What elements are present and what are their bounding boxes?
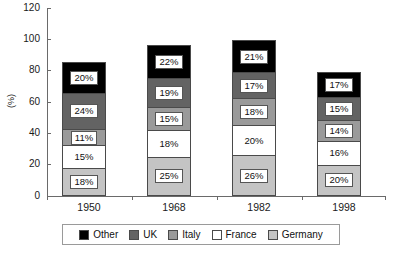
legend-swatch-france-icon [212, 230, 222, 240]
x-axis-line [47, 196, 385, 197]
y-tick-label-120: 120 [14, 3, 40, 13]
segment-germany-1950[interactable]: 18% [62, 168, 106, 196]
legend-item-uk[interactable]: UK [129, 230, 157, 240]
legend-label: Germany [282, 230, 323, 240]
legend-swatch-italy-icon [168, 230, 178, 240]
plot-area: 18% 15% 11% 24% 20% 25% [47, 8, 385, 196]
segment-label: 11% [71, 131, 97, 145]
segment-label: 26% [240, 169, 267, 183]
stacked-bar-1968[interactable]: 25% 18% 15% 19% 22% [147, 46, 191, 196]
y-tick-label-20: 20 [14, 159, 40, 169]
segment-label: 24% [70, 104, 97, 118]
segment-other-1998[interactable]: 17% [317, 72, 361, 99]
segment-france-1982[interactable]: 20% [232, 125, 276, 156]
segment-label: 15% [70, 150, 97, 164]
x-tick-mark-1 [132, 196, 133, 200]
segment-label: 16% [325, 146, 352, 160]
y-tick-label-100: 100 [14, 34, 40, 44]
legend-label: Italy [182, 230, 200, 240]
segment-label: 21% [240, 50, 267, 64]
segment-france-1968[interactable]: 18% [147, 130, 191, 158]
segment-label: 18% [70, 175, 97, 189]
legend-label: UK [143, 230, 157, 240]
legend-item-france[interactable]: France [212, 230, 257, 240]
segment-uk-1998[interactable]: 15% [317, 97, 361, 121]
stacked-bar-1998[interactable]: 20% 16% 14% 15% 17% [317, 73, 361, 196]
stacked-bar-1982[interactable]: 26% 20% 18% 17% 21% [232, 41, 276, 196]
legend-swatch-other-icon [79, 230, 89, 240]
segment-label: 20% [240, 134, 267, 148]
x-tick-mark-0 [47, 196, 48, 200]
segment-uk-1968[interactable]: 19% [147, 78, 191, 108]
y-tick-label-0: 0 [14, 191, 40, 201]
x-axis-label-1982: 1982 [224, 201, 294, 213]
segment-other-1982[interactable]: 21% [232, 40, 276, 73]
segment-france-1950[interactable]: 15% [62, 145, 106, 169]
legend-item-italy[interactable]: Italy [168, 230, 200, 240]
segment-label: 18% [240, 105, 267, 119]
segment-label: 15% [325, 102, 352, 116]
segment-uk-1950[interactable]: 24% [62, 93, 106, 131]
stacked-bar-1950[interactable]: 18% 15% 11% 24% 20% [62, 63, 106, 196]
segment-france-1998[interactable]: 16% [317, 141, 361, 166]
segment-italy-1968[interactable]: 15% [147, 107, 191, 131]
segment-germany-1982[interactable]: 26% [232, 155, 276, 196]
segment-label: 20% [325, 173, 352, 187]
y-tick-label-80: 80 [14, 65, 40, 75]
segment-germany-1968[interactable]: 25% [147, 157, 191, 196]
x-axis-label-1998: 1998 [309, 201, 379, 213]
legend-swatch-uk-icon [129, 230, 139, 240]
legend-item-other[interactable]: Other [79, 230, 118, 240]
segment-label: 15% [155, 112, 182, 126]
segment-germany-1998[interactable]: 20% [317, 165, 361, 196]
stacked-bar-chart: (%) 120 100 80 60 40 20 0 18% 15% 11% [0, 0, 401, 259]
segment-label: 18% [155, 137, 182, 151]
chart-legend: Other UK Italy France Germany [62, 224, 340, 245]
x-tick-mark-3 [302, 196, 303, 200]
legend-label: Other [93, 230, 118, 240]
segment-label: 22% [155, 55, 182, 69]
y-tick-label-60: 60 [14, 97, 40, 107]
segment-label: 14% [325, 124, 352, 138]
x-tick-mark-4 [385, 196, 386, 200]
segment-other-1950[interactable]: 20% [62, 62, 106, 93]
segment-label: 19% [155, 86, 182, 100]
legend-label: France [226, 230, 257, 240]
segment-label: 25% [155, 169, 182, 183]
segment-uk-1982[interactable]: 17% [232, 72, 276, 99]
segment-other-1968[interactable]: 22% [147, 45, 191, 80]
segment-italy-1998[interactable]: 14% [317, 120, 361, 142]
segment-label: 20% [70, 71, 97, 85]
x-axis-label-1950: 1950 [54, 201, 124, 213]
segment-italy-1982[interactable]: 18% [232, 98, 276, 126]
x-tick-mark-2 [217, 196, 218, 200]
segment-label: 17% [240, 79, 267, 93]
x-axis-label-1968: 1968 [139, 201, 209, 213]
segment-italy-1950[interactable]: 11% [62, 129, 106, 146]
y-tick-label-40: 40 [14, 128, 40, 138]
legend-swatch-germany-icon [268, 230, 278, 240]
segment-label: 17% [325, 78, 352, 92]
legend-item-germany[interactable]: Germany [268, 230, 323, 240]
